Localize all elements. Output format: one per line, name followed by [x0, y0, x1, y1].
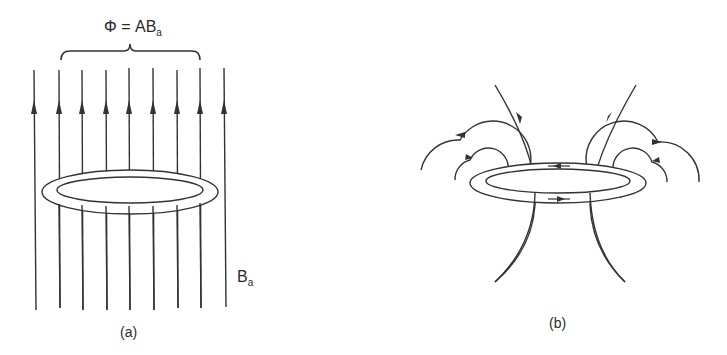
flux-subscript: a: [156, 27, 162, 38]
panel-a: [31, 44, 227, 310]
panel-b: [421, 85, 699, 282]
flux-brace: [61, 44, 200, 60]
caption-a: (a): [120, 324, 137, 340]
field-label: Ba: [237, 268, 253, 286]
caption-b: (b): [549, 315, 566, 331]
flux-label: Φ = AB: [104, 18, 156, 35]
field-arrowheads: [31, 100, 227, 114]
field-symbol: B: [237, 268, 248, 285]
field-subscript: a: [248, 277, 254, 288]
diagram-canvas: [0, 0, 727, 355]
flux-equation: Φ = ABa: [104, 18, 162, 36]
superconducting-ring-a: [42, 170, 218, 214]
